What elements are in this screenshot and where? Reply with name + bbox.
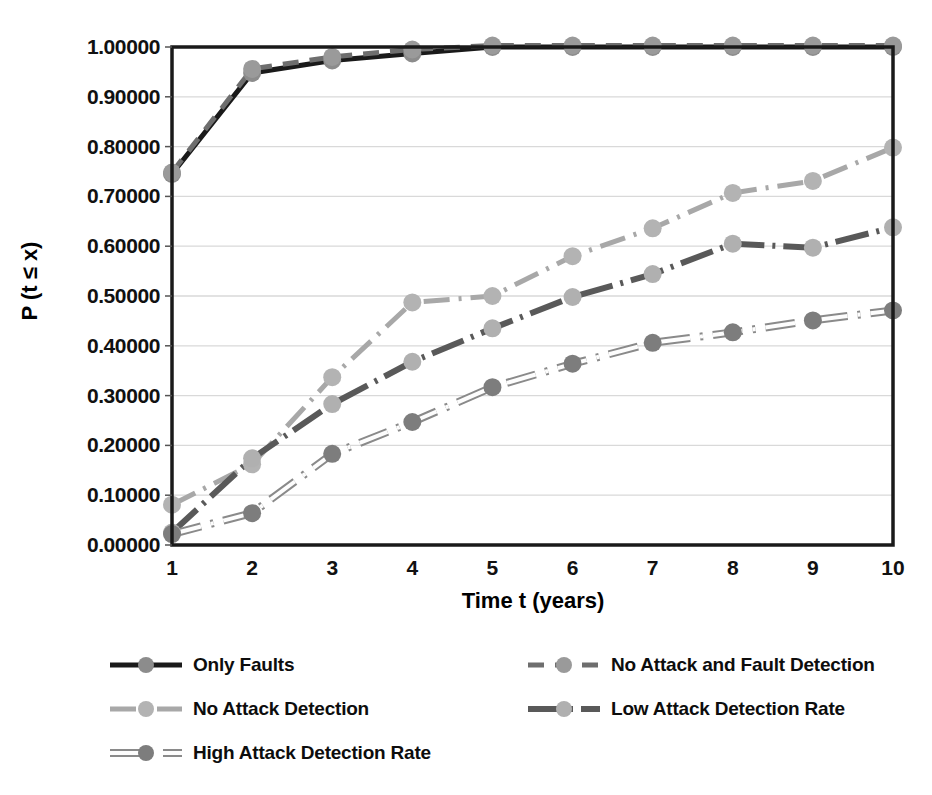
y-tick-label: 0.40000 [40,335,160,356]
data-point [403,413,421,431]
data-point [564,288,582,306]
data-point [323,395,341,413]
data-point [403,40,421,58]
series-group [172,46,893,535]
y-tick-label: 0.20000 [40,434,160,455]
gridlines [172,47,893,495]
legend-label: High Attack Detection Rate [193,742,431,764]
data-point [724,323,742,341]
legend-item[interactable]: Low Attack Detection Rate [526,696,845,722]
y-tick-label: 0.60000 [40,235,160,256]
data-point [644,334,662,352]
legend-swatch-icon [108,698,184,720]
x-tick-label: 10 [873,556,913,580]
data-point [483,319,501,337]
data-point [804,172,822,190]
x-tick-label: 8 [713,556,753,580]
data-point [483,287,501,305]
x-tick-label: 6 [553,556,593,580]
y-tick-label: 0.30000 [40,385,160,406]
data-point [724,235,742,253]
legend-swatch-icon [108,742,184,764]
legend-item[interactable]: No Attack Detection [108,696,369,722]
x-axis-title: Time t (years) [172,588,894,614]
data-point [564,247,582,265]
y-tick-label: 1.00000 [40,36,160,57]
data-point [243,60,261,78]
data-point [483,378,501,396]
data-point [323,48,341,66]
y-tick-label: 0.10000 [40,484,160,505]
y-tick-label: 0.90000 [40,86,160,107]
data-point [403,353,421,371]
x-tick-label: 9 [793,556,833,580]
x-tick-label: 4 [392,556,432,580]
data-point [243,504,261,522]
x-tick-label: 5 [472,556,512,580]
x-tick-label: 2 [232,556,272,580]
y-tick-label: 0.70000 [40,185,160,206]
series-line-4 [172,310,893,534]
legend-swatch-icon [526,698,602,720]
data-point [644,265,662,283]
legend-item[interactable]: No Attack and Fault Detection [526,652,875,678]
data-point [243,449,261,467]
legend-item[interactable]: Only Faults [108,652,294,678]
x-tick-label: 3 [312,556,352,580]
legend-swatch-icon [108,654,184,676]
data-point [323,368,341,386]
data-point [724,184,742,202]
data-point [644,219,662,237]
legend-label: Only Faults [193,654,294,676]
data-point [323,445,341,463]
chart-figure: 0.000000.100000.200000.300000.400000.500… [0,0,932,795]
legend-label: No Attack Detection [193,698,369,720]
y-axis-title: P (t ≤ x) [17,191,43,371]
series-line-1 [172,46,893,173]
x-tick-label: 1 [152,556,192,580]
y-tick-label: 0.80000 [40,136,160,157]
y-tick-label: 0.00000 [40,534,160,555]
legend-swatch-icon [526,654,602,676]
data-point [403,293,421,311]
legend-label: No Attack and Fault Detection [611,654,875,676]
data-point [804,311,822,329]
series-markers [163,37,902,544]
legend-item[interactable]: High Attack Detection Rate [108,740,431,766]
data-point [804,239,822,257]
chart-legend: Only FaultsNo Attack and Fault Detection… [108,652,898,772]
series-line-0 [172,47,893,174]
data-point [564,355,582,373]
y-tick-label: 0.50000 [40,285,160,306]
legend-label: Low Attack Detection Rate [611,698,845,720]
x-tick-label: 7 [633,556,673,580]
series-line-3 [172,227,893,532]
